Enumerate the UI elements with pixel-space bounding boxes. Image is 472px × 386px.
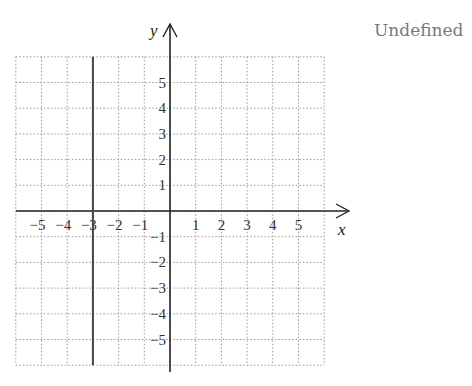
axes: x y: [16, 21, 349, 372]
x-tick-label: 1: [192, 217, 200, 233]
x-tick-label: −4: [55, 217, 71, 233]
x-tick-label: 3: [243, 217, 251, 233]
y-tick-label: −4: [150, 306, 166, 322]
y-tick-label: −5: [150, 332, 166, 348]
y-tick-label: 5: [159, 75, 167, 91]
y-tick-label: −2: [150, 254, 166, 270]
y-tick-label: 4: [159, 100, 167, 116]
x-tick-label: −5: [30, 217, 46, 233]
y-tick-label: 2: [159, 152, 167, 168]
y-tick-label: 1: [159, 177, 167, 193]
slope-answer-text: Undefined: [374, 20, 463, 40]
x-tick-label: 4: [269, 217, 277, 233]
y-tick-label: −1: [150, 229, 166, 245]
coordinate-plane: x y −5−4−3−2−11234554321−1−2−3−4−5: [0, 0, 472, 386]
x-tick-label: −2: [107, 217, 123, 233]
x-tick-label: −1: [132, 217, 148, 233]
y-axis-label: y: [148, 21, 158, 40]
x-tick-label: 2: [218, 217, 226, 233]
y-tick-label: −3: [150, 280, 166, 296]
y-tick-label: 3: [159, 126, 167, 142]
x-axis-label: x: [337, 220, 346, 239]
x-tick-label: 5: [295, 217, 303, 233]
x-tick-label: −3: [81, 217, 97, 233]
